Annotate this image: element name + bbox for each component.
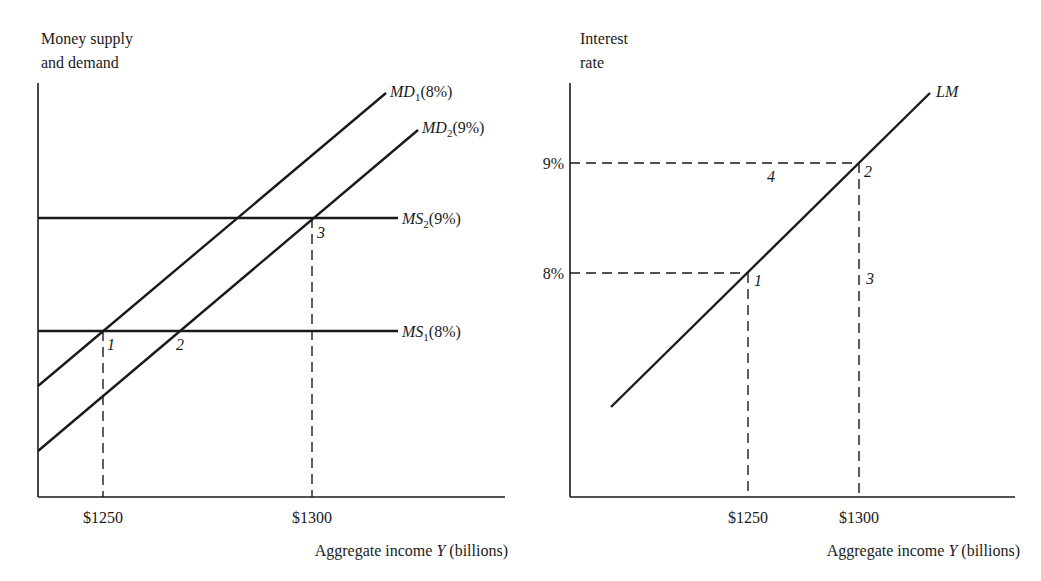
right-point-3: 3 bbox=[865, 270, 874, 287]
left-ylabel-line1: Money supply bbox=[41, 30, 133, 48]
left-panel: Money supply and demand MD1(8%) MD2(9%) … bbox=[38, 30, 508, 560]
left-xlabel: Aggregate income Y (billions) bbox=[315, 542, 508, 560]
ms2-label: MS2(9%) bbox=[401, 210, 461, 230]
right-point-2: 2 bbox=[864, 163, 872, 180]
md2-label: MD2(9%) bbox=[421, 119, 484, 139]
md1-line bbox=[38, 93, 386, 386]
md1-label: MD1(8%) bbox=[389, 83, 452, 103]
right-point-1: 1 bbox=[754, 272, 762, 289]
right-xlabel: Aggregate income Y (billions) bbox=[827, 542, 1020, 560]
left-ylabel-line2: and demand bbox=[41, 54, 119, 71]
left-xtick-1250: $1250 bbox=[83, 509, 123, 526]
right-xtick-1250: $1250 bbox=[728, 509, 768, 526]
right-point-4: 4 bbox=[767, 168, 775, 185]
right-ylabel-line1: Interest bbox=[580, 30, 629, 47]
right-ylabel-line2: rate bbox=[580, 54, 604, 71]
lm-curve bbox=[611, 93, 930, 407]
md2-line bbox=[38, 130, 418, 451]
figure: Money supply and demand MD1(8%) MD2(9%) … bbox=[0, 0, 1041, 581]
ytick-9: 9% bbox=[543, 155, 564, 172]
left-point-3: 3 bbox=[316, 224, 325, 241]
ytick-8: 8% bbox=[543, 265, 564, 282]
left-xtick-1300: $1300 bbox=[292, 509, 332, 526]
left-point-2: 2 bbox=[176, 336, 184, 353]
right-panel: Interest rate 9% 8% LM 1 2 3 4 $1250 $13… bbox=[543, 30, 1020, 560]
lm-label: LM bbox=[935, 83, 960, 100]
right-xtick-1300: $1300 bbox=[839, 509, 879, 526]
ms1-label: MS1(8%) bbox=[401, 323, 461, 343]
left-point-1: 1 bbox=[107, 336, 115, 353]
